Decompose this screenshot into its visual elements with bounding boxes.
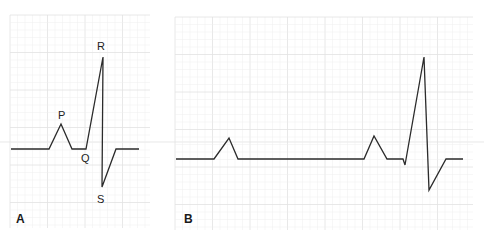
panel-b: B	[175, 17, 473, 230]
panel-label: B	[184, 212, 193, 226]
ecg-grid	[175, 17, 473, 230]
wave-label-q: Q	[81, 152, 90, 164]
wave-label-r: R	[97, 40, 105, 52]
ecg-grid	[10, 15, 150, 228]
wave-label-p: P	[58, 109, 65, 121]
panel-label: A	[16, 212, 25, 226]
wave-label-s: S	[97, 193, 104, 205]
ecg-diagram: PQRSAB	[0, 0, 484, 242]
panel-a: PQRSA	[10, 15, 150, 228]
ecg-figure: PQRSAB	[0, 0, 484, 242]
ecg-trace	[11, 57, 139, 187]
